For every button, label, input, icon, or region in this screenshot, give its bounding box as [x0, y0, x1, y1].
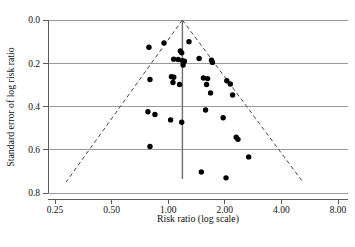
study-point — [199, 169, 204, 174]
x-axis-ticks — [55, 199, 338, 204]
study-point — [180, 62, 185, 67]
funnel-plot-canvas: 0.00.20.40.60.8 0.250.501.002.004.008.00… — [0, 0, 355, 247]
study-point — [146, 45, 151, 50]
y-tick-label: 0.2 — [28, 59, 40, 69]
x-tick-label: 8.00 — [330, 205, 347, 215]
study-point — [228, 81, 233, 86]
study-point — [230, 92, 235, 97]
x-tick-label: 4.00 — [273, 205, 290, 215]
study-point — [147, 77, 152, 82]
study-point — [246, 154, 251, 159]
study-point — [177, 82, 182, 87]
study-point — [203, 107, 208, 112]
y-tick-label: 0.0 — [28, 15, 40, 25]
study-point — [208, 90, 213, 95]
y-tick-label: 0.4 — [28, 102, 40, 112]
study-point — [220, 115, 225, 120]
funnel-edge-right — [182, 20, 303, 182]
study-point — [204, 82, 209, 87]
study-point — [235, 137, 240, 142]
study-point — [205, 76, 210, 81]
y-tick-label: 0.6 — [28, 145, 40, 155]
y-axis-tick-labels: 0.00.20.40.60.8 — [28, 15, 40, 198]
funnel-confidence-edges — [66, 20, 303, 182]
x-tick-label: 0.25 — [47, 205, 64, 215]
study-point — [147, 144, 152, 149]
x-axis-title: Risk ratio (log scale) — [157, 213, 239, 225]
study-point — [145, 109, 150, 114]
study-points — [145, 39, 251, 181]
study-point — [210, 60, 215, 65]
study-point — [170, 80, 175, 85]
study-point — [196, 56, 201, 61]
study-point — [179, 50, 184, 55]
study-point — [152, 112, 157, 117]
study-point — [168, 117, 173, 122]
x-tick-label: 0.50 — [103, 205, 120, 215]
axis-lines — [48, 20, 348, 199]
y-axis-title: Standard error of log risk ratio — [5, 47, 16, 167]
study-point — [179, 120, 184, 125]
y-tick-label: 0.8 — [28, 188, 40, 198]
y-axis-ticks — [43, 20, 48, 193]
study-point — [223, 175, 228, 180]
horizontal-gridlines — [48, 20, 348, 193]
study-point — [161, 40, 166, 45]
study-point — [171, 75, 176, 80]
funnel-plot-figure: 0.00.20.40.60.8 0.250.501.002.004.008.00… — [0, 0, 355, 247]
study-point — [186, 39, 191, 44]
